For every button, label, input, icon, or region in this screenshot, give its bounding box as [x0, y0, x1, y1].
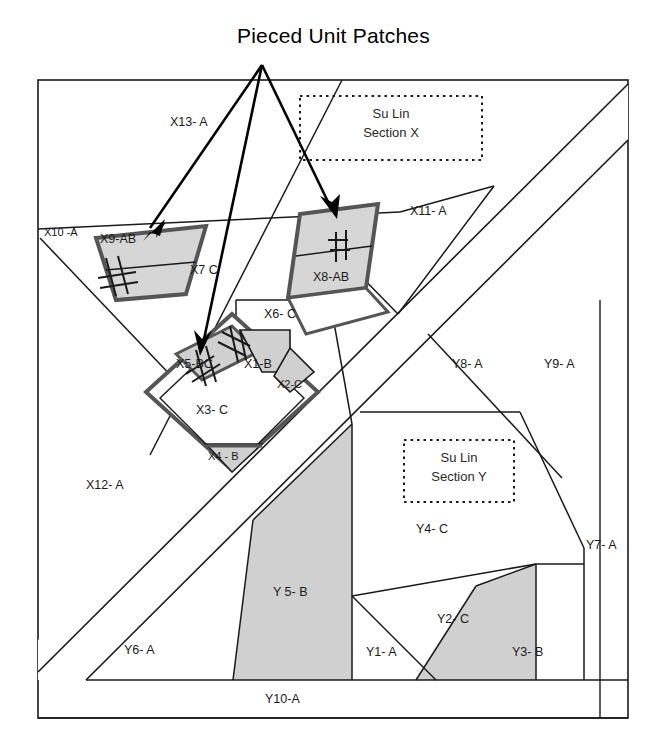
patch-label-x9: X9-AB: [100, 232, 136, 246]
patch-label-x3: X3- C: [196, 403, 228, 417]
patch-label-y6: Y6- A: [124, 643, 155, 657]
patch-label-y1: Y1- A: [366, 645, 397, 659]
annotation-section-y-line2: Section Y: [431, 469, 487, 484]
patch-label-y3: Y3- B: [512, 645, 543, 659]
annotation-section-y-line1: Su Lin: [441, 450, 478, 465]
patch-label-x12: X12- A: [86, 478, 124, 492]
diagram-canvas: Su Lin Section X Su Lin Section Y X13- A…: [0, 0, 667, 755]
patch-label-x5: X5-BC: [176, 357, 213, 371]
patch-label-y2: Y2- C: [437, 612, 469, 626]
patch-label-x8: X8-AB: [313, 270, 349, 284]
patch-label-x6: X6- C: [264, 307, 296, 321]
quilt-diagram: Pieced Unit Patches: [0, 0, 667, 755]
patch-label-y9: Y9- A: [544, 357, 575, 371]
patch-label-y10: Y10-A: [265, 692, 300, 706]
annotation-section-x-line2: Section X: [363, 125, 419, 140]
patch-label-x4: X4 - B: [208, 450, 239, 462]
annotation-section-x-line1: Su Lin: [373, 106, 410, 121]
patch-label-x13: X13- A: [170, 115, 208, 129]
patch-label-y5: Y 5- B: [273, 585, 308, 599]
patch-label-y7: Y7- A: [586, 538, 617, 552]
patch-label-x11: X11- A: [410, 204, 447, 218]
patch-label-y4: Y4- C: [416, 522, 448, 536]
patch-label-x10: X10 -A: [44, 226, 78, 238]
patch-label-x2: X2-C: [277, 378, 302, 390]
patch-label-y8: Y8- A: [452, 357, 483, 371]
patch-label-x1: X1-B: [244, 357, 272, 371]
patch-label-x7: X7 C: [190, 263, 218, 277]
